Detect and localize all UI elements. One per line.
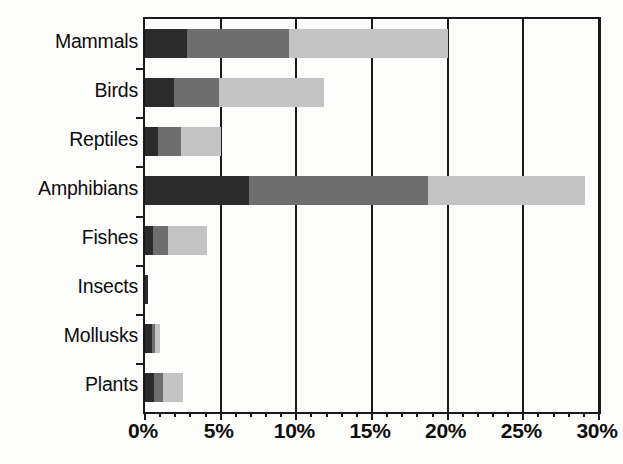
x-tick-8: [265, 412, 267, 417]
stacked-bar: [145, 373, 183, 402]
x-tick-14: [356, 412, 358, 417]
y-axis-label-mammals: Mammals: [3, 30, 138, 53]
stacked-bar: [145, 324, 160, 353]
bar-row: [145, 314, 599, 363]
bar-segment: [289, 29, 448, 58]
x-tick-4: [205, 412, 207, 417]
bar-segment: [145, 78, 174, 107]
x-tick-19: [432, 412, 434, 417]
plot-area: [143, 17, 601, 414]
x-axis-label-5%: 5%: [204, 419, 234, 443]
y-tick: [136, 216, 145, 218]
bar-segment: [158, 127, 181, 156]
stacked-bar: [145, 275, 148, 304]
x-axis-label-10%: 10%: [274, 419, 315, 443]
bar-segment: [155, 324, 160, 353]
bar-segment: [153, 226, 168, 255]
x-tick-2: [174, 412, 176, 417]
y-tick: [136, 68, 145, 70]
bar-segment: [145, 324, 152, 353]
y-axis-label-plants: Plants: [3, 373, 138, 396]
x-tick-16: [386, 412, 388, 417]
bar-row: [145, 166, 599, 215]
bar-segment: [154, 373, 163, 402]
bar-row: [145, 19, 599, 68]
x-axis-label-25%: 25%: [501, 419, 542, 443]
bar-row: [145, 363, 599, 412]
bar-segment: [187, 29, 288, 58]
y-axis-label-amphibians: Amphibians: [3, 177, 138, 200]
y-tick: [136, 265, 145, 267]
stacked-bar: [145, 176, 585, 205]
stacked-bar: [145, 29, 448, 58]
y-axis-label-fishes: Fishes: [3, 226, 138, 249]
x-tick-23: [492, 412, 494, 417]
x-axis-label-0%: 0%: [128, 419, 158, 443]
stacked-bar: [145, 127, 221, 156]
y-axis-labels: MammalsBirdsReptilesAmphibiansFishesInse…: [0, 17, 138, 410]
x-tick-22: [477, 412, 479, 417]
bar-row: [145, 68, 599, 117]
x-tick-7: [250, 412, 252, 417]
x-tick-13: [341, 412, 343, 417]
bar-segment: [168, 226, 207, 255]
bar-row: [145, 265, 599, 314]
x-axis-label-15%: 15%: [349, 419, 390, 443]
x-tick-17: [401, 412, 403, 417]
x-tick-11: [310, 412, 312, 417]
x-tick-28: [568, 412, 570, 417]
bar-segment: [181, 127, 221, 156]
y-tick: [136, 117, 145, 119]
bar-segment: [428, 176, 585, 205]
y-axis-label-mollusks: Mollusks: [3, 324, 138, 347]
y-axis-label-reptiles: Reptiles: [3, 128, 138, 151]
x-axis-label-20%: 20%: [425, 419, 466, 443]
y-tick: [136, 166, 145, 168]
x-tick-18: [416, 412, 418, 417]
bar-row: [145, 117, 599, 166]
stacked-bar: [145, 78, 324, 107]
x-tick-27: [553, 412, 555, 417]
bar-segment: [145, 226, 153, 255]
x-axis-label-30%: 30%: [576, 419, 617, 443]
y-axis-label-birds: Birds: [3, 79, 138, 102]
y-tick: [136, 314, 145, 316]
x-tick-29: [583, 412, 585, 417]
bar-segment: [145, 127, 158, 156]
bar-segment: [145, 29, 187, 58]
x-tick-26: [537, 412, 539, 417]
bar-chart: MammalsBirdsReptilesAmphibiansFishesInse…: [0, 0, 623, 464]
x-tick-6: [235, 412, 237, 417]
x-tick-9: [280, 412, 282, 417]
bar-segment: [249, 176, 428, 205]
y-tick: [136, 363, 145, 365]
x-tick-1: [159, 412, 161, 417]
bar-segment: [145, 275, 148, 304]
x-tick-21: [462, 412, 464, 417]
y-axis-label-insects: Insects: [3, 275, 138, 298]
bar-segment: [145, 373, 154, 402]
bar-segment: [145, 176, 249, 205]
stacked-bar: [145, 226, 207, 255]
x-tick-12: [326, 412, 328, 417]
bar-row: [145, 216, 599, 265]
bar-segment: [174, 78, 219, 107]
bar-segment: [219, 78, 323, 107]
bar-segment: [163, 373, 183, 402]
x-tick-24: [507, 412, 509, 417]
x-axis-labels: 0%5%10%15%20%25%30%: [0, 419, 623, 459]
x-tick-3: [189, 412, 191, 417]
